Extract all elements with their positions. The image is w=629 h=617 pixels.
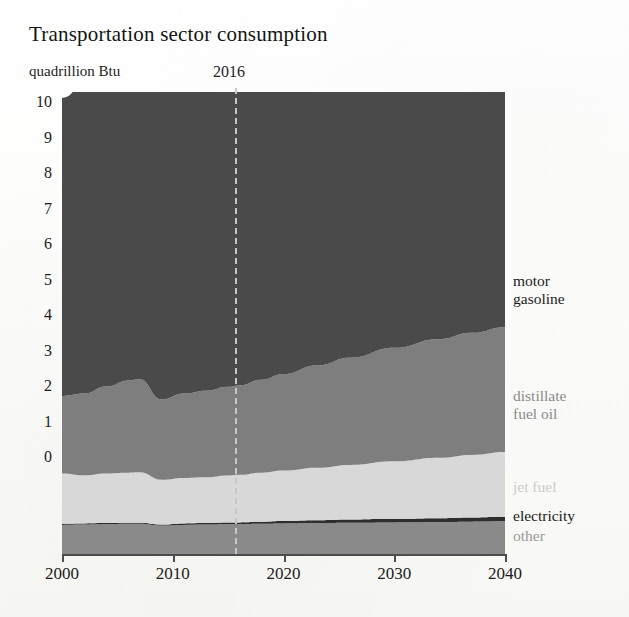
series-label-jet-fuel: jet fuel <box>513 478 556 496</box>
y-axis-tick-4: 4 <box>44 307 52 323</box>
x-axis-tick-mark-2020 <box>284 554 286 562</box>
x-axis-tick-2030: 2030 <box>377 564 411 584</box>
series-label-distillate-line1: distillate <box>513 387 566 405</box>
series-label-electricity: electricity <box>513 507 575 525</box>
series-label-motor-gasoline-line1: motor <box>513 272 565 290</box>
x-axis-tick-mark-2030 <box>394 554 396 562</box>
y-axis-tick-7: 7 <box>44 201 52 217</box>
chart-figure: Transportation sector consumption quadri… <box>0 0 629 617</box>
series-label-other: other <box>513 527 545 545</box>
y-axis-tick-10: 10 <box>36 94 52 110</box>
y-axis-labels: 109876543210 <box>0 0 62 617</box>
x-axis-tick-2020: 2020 <box>267 564 301 584</box>
history-projection-divider <box>235 88 237 554</box>
stacked-area-plot <box>62 92 505 554</box>
y-axis-tick-9: 9 <box>44 130 52 146</box>
series-label-motor-gasoline: motor gasoline <box>513 272 565 308</box>
y-axis-tick-6: 6 <box>44 236 52 252</box>
y-axis-tick-5: 5 <box>44 272 52 288</box>
y-axis-tick-0: 0 <box>44 449 52 465</box>
y-axis-tick-2: 2 <box>44 378 52 394</box>
x-axis-tick-2040: 2040 <box>488 564 522 584</box>
x-axis-tick-2000: 2000 <box>45 564 79 584</box>
series-label-distillate-fuel-oil: distillate fuel oil <box>513 387 566 423</box>
chart-title: Transportation sector consumption <box>29 22 328 47</box>
x-axis-tick-2010: 2010 <box>156 564 190 584</box>
y-axis-tick-3: 3 <box>44 343 52 359</box>
divider-year-label: 2016 <box>213 63 245 81</box>
series-label-distillate-line2: fuel oil <box>513 405 566 423</box>
x-axis-tick-mark-2040 <box>505 554 507 562</box>
series-label-motor-gasoline-line2: gasoline <box>513 290 565 308</box>
x-axis-tick-mark-2000 <box>62 554 64 562</box>
y-axis-tick-1: 1 <box>44 414 52 430</box>
area-series-other <box>62 521 505 554</box>
y-axis-tick-8: 8 <box>44 165 52 181</box>
x-axis-tick-mark-2010 <box>173 554 175 562</box>
